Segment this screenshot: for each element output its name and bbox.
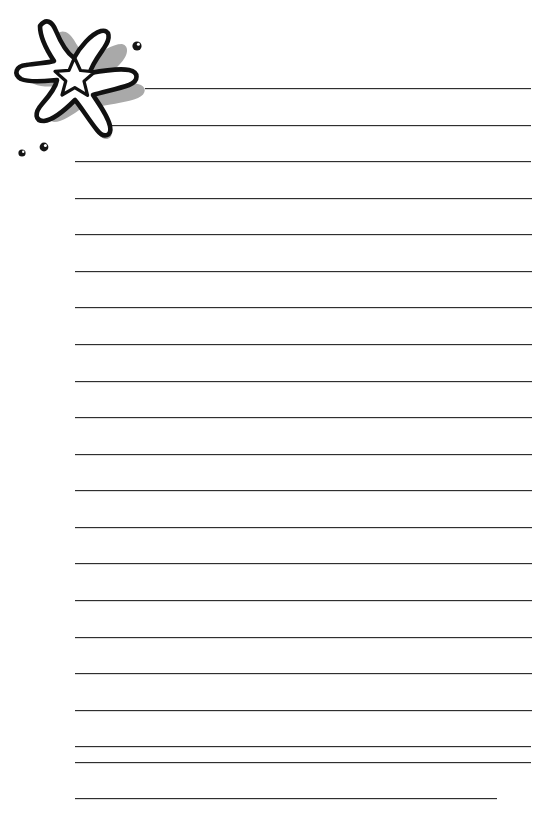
stationery-page: Lined Stationery Page	[0, 0, 559, 820]
rule-line	[75, 600, 532, 601]
rule-line	[75, 490, 532, 491]
rule-line	[75, 710, 532, 711]
rule-line	[75, 762, 531, 763]
rule-line	[75, 381, 532, 382]
rule-line	[75, 307, 532, 308]
ruled-lines-group	[0, 0, 559, 820]
rule-line	[75, 798, 497, 799]
rule-line	[75, 563, 532, 564]
rule-line	[75, 161, 531, 162]
rule-line	[75, 271, 532, 272]
rule-line	[75, 673, 532, 674]
rule-line	[75, 417, 532, 418]
rule-line	[75, 234, 532, 235]
rule-line	[75, 637, 532, 638]
rule-line	[75, 344, 532, 345]
rule-line	[75, 198, 532, 199]
rule-line	[75, 746, 531, 747]
rule-line	[145, 88, 531, 89]
rule-line	[112, 125, 531, 126]
rule-line	[75, 454, 532, 455]
rule-line	[75, 527, 532, 528]
